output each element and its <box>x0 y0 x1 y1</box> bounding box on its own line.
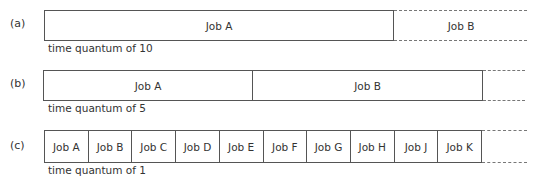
job-block: Job A <box>45 131 89 162</box>
job-block: Job A <box>45 11 393 40</box>
row-c-timeline: Job A Job B Job C Job D Job E Job F Job … <box>44 130 482 163</box>
job-block: Job D <box>176 131 220 162</box>
job-block: Job G <box>307 131 351 162</box>
job-block: Job C <box>132 131 176 162</box>
job-block: Job K <box>438 131 481 162</box>
job-block: Job H <box>351 131 395 162</box>
job-block: Job J <box>395 131 439 162</box>
continuation-dash-bottom <box>483 100 525 101</box>
row-b-timeline: Job A Job B <box>43 70 483 101</box>
row-a-caption: time quantum of 10 <box>48 42 153 54</box>
job-block: Job B <box>253 71 482 100</box>
continuation-dash-top <box>482 130 527 131</box>
row-a-label: (a) <box>10 17 25 30</box>
job-block-continuation: Job B <box>394 10 528 41</box>
job-block: Job A <box>44 71 253 100</box>
job-block: Job F <box>264 131 308 162</box>
row-b-label: (b) <box>10 77 26 90</box>
continuation-dash-bottom <box>482 162 527 163</box>
row-c-label: (c) <box>10 139 25 152</box>
job-block: Job E <box>220 131 264 162</box>
row-b-caption: time quantum of 5 <box>48 102 146 114</box>
job-block: Job B <box>89 131 133 162</box>
row-c-caption: time quantum of 1 <box>48 164 146 176</box>
continuation-dash-top <box>483 70 525 71</box>
row-a-timeline: Job A <box>44 10 394 41</box>
